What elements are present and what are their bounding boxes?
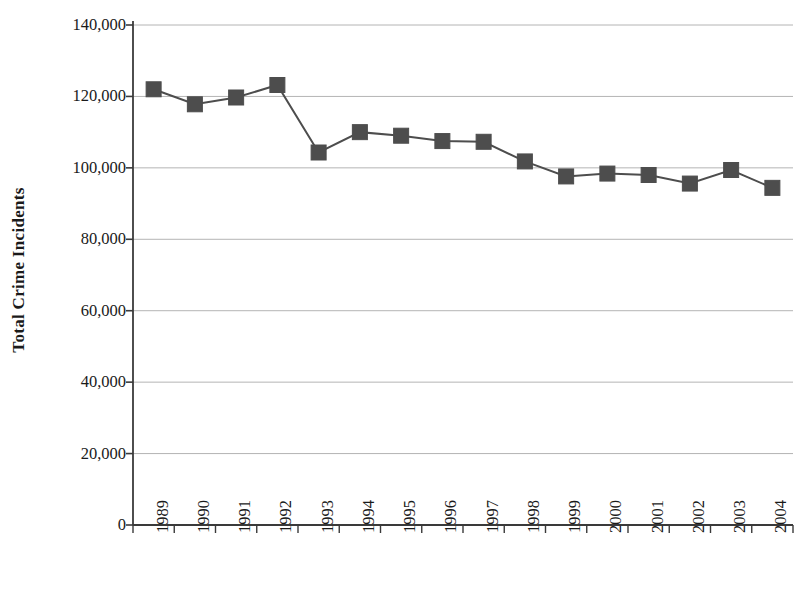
- x-axis-tick-label: 1990: [195, 500, 213, 570]
- x-axis-tick-label: 1999: [566, 500, 584, 570]
- x-axis-tick-label: 2002: [690, 500, 708, 570]
- crime-incidents-line-chart: Total Crime Incidents 020,00040,00060,00…: [0, 0, 808, 600]
- x-axis-tick-label: 2000: [607, 500, 625, 570]
- x-axis-tick-label: 1995: [401, 500, 419, 570]
- x-axis-tick-label: 1997: [484, 500, 502, 570]
- x-axis-tick-label: 1998: [525, 500, 543, 570]
- x-axis-tick-label: 1992: [277, 500, 295, 570]
- x-axis-tick-label: 1989: [154, 500, 172, 570]
- x-axis-tick-label: 2004: [772, 500, 790, 570]
- x-axis-tick-labels: 1989199019911992199319941995199619971998…: [0, 0, 808, 600]
- x-axis-tick-label: 1991: [236, 500, 254, 570]
- x-axis-tick-label: 1996: [442, 500, 460, 570]
- x-axis-tick-label: 1993: [319, 500, 337, 570]
- x-axis-tick-label: 2003: [731, 500, 749, 570]
- x-axis-tick-label: 1994: [360, 500, 378, 570]
- x-axis-tick-label: 2001: [649, 500, 667, 570]
